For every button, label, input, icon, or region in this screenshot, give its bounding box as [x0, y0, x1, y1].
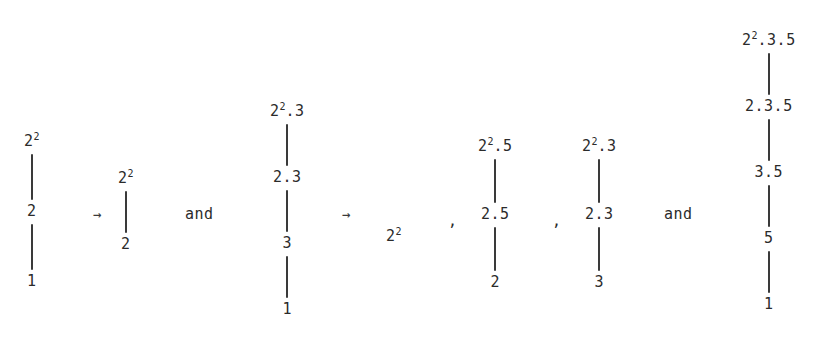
chain-node: 5	[764, 230, 774, 247]
chain-node: 3	[595, 274, 605, 291]
conjunction-label: and	[185, 206, 214, 222]
chain-node: 2	[491, 274, 501, 291]
term-exponent: 2	[396, 226, 403, 237]
chain-node: 2	[121, 236, 131, 253]
node-base: 3.5	[755, 163, 784, 181]
node-base: 3	[595, 273, 605, 291]
chain-node: 22.3	[270, 103, 305, 120]
node-base: 5	[764, 229, 774, 247]
term-base: 2	[386, 227, 396, 245]
chain-node: 22.3.5	[742, 32, 796, 49]
node-base: 2	[24, 132, 34, 150]
node-base: 2.3	[273, 168, 302, 186]
node-exponent: 2	[34, 131, 40, 142]
chain-edge	[598, 159, 600, 203]
node-base: 2	[478, 137, 488, 155]
node-base: 2	[118, 169, 128, 187]
chain-6: 22.3.52.3.53.551	[742, 32, 796, 313]
chain-4: 22.52.52	[478, 138, 513, 291]
chain-edge	[494, 227, 496, 271]
node-base: 2	[121, 235, 131, 253]
chain-edge	[286, 124, 288, 166]
chain-node: 22	[24, 133, 40, 150]
chain-node: 22.3	[582, 138, 617, 155]
chain-edge	[286, 190, 288, 232]
node-exponent: 2	[128, 168, 134, 179]
node-base: 2.3	[585, 205, 614, 223]
chain-node: 2	[27, 203, 37, 220]
node-base: 2	[582, 137, 592, 155]
chain-node: 22.5	[478, 138, 513, 155]
chain-edge	[125, 191, 127, 233]
chain-edge	[768, 185, 770, 227]
chain-node: 22	[118, 170, 134, 187]
chain-node: 2.5	[481, 206, 510, 223]
node-suffix: .3	[286, 102, 305, 120]
chain-edge	[598, 227, 600, 271]
transform-arrow-icon: →	[93, 207, 101, 221]
node-base: 2.5	[481, 205, 510, 223]
chain-edge	[31, 154, 33, 200]
transform-arrow-icon: →	[342, 207, 350, 221]
chain-edge	[31, 224, 33, 270]
chain-node: 3.5	[755, 164, 784, 181]
chain-node: 2.3	[585, 206, 614, 223]
chain-1: 2221	[24, 133, 40, 290]
chain-3: 22.32.331	[270, 103, 305, 318]
separator-comma: ,	[448, 213, 457, 229]
chain-node: 2.3.5	[745, 98, 793, 115]
node-base: 1	[764, 295, 774, 313]
node-base: 2	[491, 273, 501, 291]
chain-edge	[494, 159, 496, 203]
node-base: 2.3.5	[745, 97, 793, 115]
conjunction-label: and	[664, 206, 693, 222]
node-base: 2	[270, 102, 280, 120]
chain-edge	[286, 256, 288, 298]
separator-comma: ,	[552, 213, 561, 229]
node-base: 1	[27, 272, 37, 290]
node-suffix: .5	[494, 137, 513, 155]
chain-edge	[768, 251, 770, 293]
chain-node: 1	[27, 273, 37, 290]
chain-edge	[768, 119, 770, 161]
chain-node: 1	[764, 296, 774, 313]
node-base: 2	[27, 202, 37, 220]
standalone-term: 22	[386, 228, 402, 245]
node-base: 1	[283, 300, 293, 318]
chain-node: 2.3	[273, 169, 302, 186]
chain-edge	[768, 53, 770, 95]
node-base: 3	[283, 234, 293, 252]
node-suffix: .3	[598, 137, 617, 155]
chain-2: 222	[118, 170, 134, 253]
node-suffix: .3.5	[758, 31, 796, 49]
chain-5: 22.32.33	[582, 138, 617, 291]
chain-node: 1	[283, 301, 293, 318]
chain-node: 3	[283, 235, 293, 252]
node-base: 2	[742, 31, 752, 49]
